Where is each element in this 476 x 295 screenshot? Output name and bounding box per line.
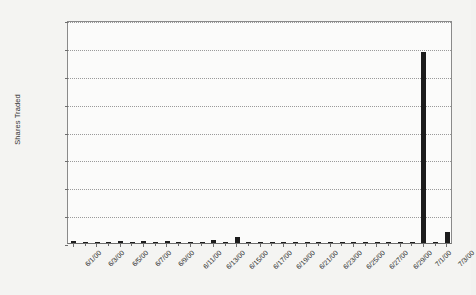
y-tick-mark xyxy=(65,189,68,190)
gridline xyxy=(68,217,451,218)
bar xyxy=(281,242,286,243)
x-tick-mark xyxy=(143,244,144,247)
plot-area: 050,000100,000150,000200,000250,000300,0… xyxy=(67,21,452,244)
x-tick-mark xyxy=(353,244,354,247)
x-tick-mark-minor xyxy=(155,244,156,246)
x-tick-label: 6/29/00 xyxy=(411,249,432,270)
x-tick-mark xyxy=(73,244,74,247)
x-tick-mark-minor xyxy=(388,244,389,246)
x-tick-mark-minor xyxy=(108,244,109,246)
bar xyxy=(188,242,193,243)
x-tick-label: 6/15/00 xyxy=(248,249,269,270)
x-tick-mark-minor xyxy=(178,244,179,246)
x-tick-label: 6/9/00 xyxy=(177,249,196,268)
y-tick-mark xyxy=(65,134,68,135)
bar xyxy=(106,242,111,243)
bar xyxy=(246,242,251,243)
x-tick-mark xyxy=(306,244,307,247)
bar xyxy=(235,237,240,243)
x-tick-mark-minor xyxy=(435,244,436,246)
gridline xyxy=(68,106,451,107)
bar xyxy=(433,242,438,243)
bar xyxy=(211,240,216,243)
x-tick-mark xyxy=(166,244,167,247)
x-tick-label: 6/5/00 xyxy=(130,249,149,268)
bar xyxy=(363,242,368,243)
bar xyxy=(293,242,298,243)
bar xyxy=(375,242,380,243)
x-tick-mark-minor xyxy=(318,244,319,246)
y-tick-mark xyxy=(65,50,68,51)
x-tick-mark-minor xyxy=(271,244,272,246)
bar xyxy=(130,242,135,243)
gridline xyxy=(68,134,451,135)
y-tick-mark xyxy=(65,161,68,162)
y-axis-title: Shares Traded xyxy=(13,80,22,160)
x-tick-label: 6/3/00 xyxy=(107,249,126,268)
gridline xyxy=(68,189,451,190)
x-tick-mark-minor xyxy=(225,244,226,246)
x-tick-label: 6/7/00 xyxy=(154,249,173,268)
y-tick-mark xyxy=(65,217,68,218)
x-tick-mark xyxy=(330,244,331,247)
x-tick-label: 6/19/00 xyxy=(295,249,316,270)
x-tick-label: 6/23/00 xyxy=(341,249,362,270)
x-tick-mark-minor xyxy=(201,244,202,246)
bar xyxy=(223,242,228,243)
x-tick-label: 6/1/00 xyxy=(84,249,103,268)
bar xyxy=(386,242,391,243)
gridline xyxy=(68,161,451,162)
x-tick-mark xyxy=(120,244,121,247)
x-tick-mark xyxy=(213,244,214,247)
bar xyxy=(153,242,158,243)
bar xyxy=(340,242,345,243)
x-tick-mark xyxy=(190,244,191,247)
bar xyxy=(421,52,426,243)
bar xyxy=(200,242,205,243)
x-tick-mark xyxy=(400,244,401,247)
bar xyxy=(410,242,415,243)
y-tick-mark xyxy=(65,22,68,23)
x-tick-mark-minor xyxy=(85,244,86,246)
x-tick-mark-minor xyxy=(131,244,132,246)
x-tick-mark xyxy=(376,244,377,247)
x-tick-label: 7/1/00 xyxy=(434,249,453,268)
x-tick-mark xyxy=(236,244,237,247)
y-tick-mark xyxy=(65,106,68,107)
x-tick-label: 6/25/00 xyxy=(365,249,386,270)
bar xyxy=(83,242,88,243)
x-tick-mark xyxy=(446,244,447,247)
x-tick-mark xyxy=(423,244,424,247)
gridline xyxy=(68,78,451,79)
x-tick-label: 6/21/00 xyxy=(318,249,339,270)
bar xyxy=(351,242,356,243)
x-tick-label: 6/17/00 xyxy=(271,249,292,270)
bar xyxy=(258,242,263,243)
x-tick-label: 6/13/00 xyxy=(225,249,246,270)
bar xyxy=(118,241,123,243)
gridline xyxy=(68,22,451,23)
bar xyxy=(141,241,146,243)
x-tick-mark-minor xyxy=(341,244,342,246)
x-tick-mark-minor xyxy=(365,244,366,246)
x-tick-mark-minor xyxy=(248,244,249,246)
x-tick-mark xyxy=(283,244,284,247)
x-tick-mark xyxy=(96,244,97,247)
x-tick-mark xyxy=(260,244,261,247)
x-axis: 6/1/006/3/006/5/006/7/006/9/006/11/006/1… xyxy=(67,244,452,295)
y-tick-mark xyxy=(65,78,68,79)
x-tick-label: 6/11/00 xyxy=(201,249,222,270)
bar xyxy=(398,242,403,243)
x-tick-label: 7/3/00 xyxy=(457,249,476,268)
bar xyxy=(270,242,275,243)
bar xyxy=(165,241,170,243)
x-tick-label: 6/27/00 xyxy=(388,249,409,270)
bar xyxy=(71,241,76,243)
x-tick-mark-minor xyxy=(411,244,412,246)
gridline xyxy=(68,50,451,51)
bar xyxy=(95,242,100,243)
bar xyxy=(316,242,321,243)
bar xyxy=(176,242,181,243)
bar xyxy=(445,232,450,243)
